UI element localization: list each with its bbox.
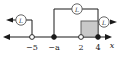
right-ray-arrow-icon — [110, 19, 117, 24]
shaded-region — [81, 21, 98, 37]
tick-label-4: 4 — [95, 43, 100, 52]
axis-arrow-left-icon — [3, 34, 10, 40]
endpoint-open-2 — [79, 35, 84, 40]
left-ray-badge-label: L — [18, 17, 23, 24]
axis-name-label: x — [110, 41, 115, 50]
middle-bracket-badge-label: L — [74, 6, 79, 13]
right-ray-branch: L — [98, 17, 117, 27]
endpoint-filled-nega — [52, 35, 57, 40]
right-ray-badge-label: L — [101, 19, 106, 26]
axis-tick-labels: −5 −a 2 4 x — [26, 41, 115, 52]
tick-label-nega: −a — [48, 43, 60, 52]
left-ray-branch: L — [6, 15, 32, 37]
axis-arrow-right-icon — [105, 34, 112, 40]
endpoint-open-neg5 — [30, 35, 35, 40]
endpoint-filled-4 — [96, 35, 101, 40]
number-line-figure: L L L −5 −a 2 — [0, 0, 120, 58]
shaded-region-rect — [81, 21, 98, 37]
tick-label-neg5: −5 — [26, 43, 38, 52]
left-ray-arrow-icon — [6, 17, 13, 22]
tick-label-2: 2 — [78, 43, 83, 52]
